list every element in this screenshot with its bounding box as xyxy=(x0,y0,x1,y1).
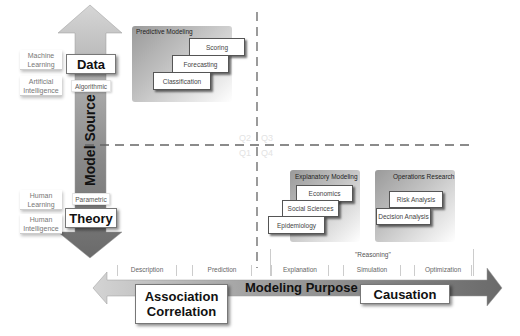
purpose-explanation: Explanation xyxy=(271,265,329,276)
data-box: Data xyxy=(66,54,116,74)
association-label: Association xyxy=(145,289,219,304)
risk-analysis-card: Risk Analysis xyxy=(389,191,443,208)
classification-card: Classification xyxy=(153,72,211,90)
purpose-simulation: Simulation xyxy=(343,265,401,276)
artificial-intelligence-label: Artificial Intelligence xyxy=(20,76,62,96)
human-intelligence-label: Human Intelligence xyxy=(20,214,62,234)
human-learning-label: Human Learning xyxy=(20,190,62,210)
decision-analysis-card: Decision Analysis xyxy=(376,208,431,225)
algorithmic-tag: Algorithmic xyxy=(71,80,111,92)
parametric-tag: Parametric xyxy=(72,193,110,205)
epidemiology-card: Epidemiology xyxy=(268,216,325,234)
purpose-description: Description xyxy=(117,265,177,276)
scoring-card: Scoring xyxy=(189,38,245,56)
causation-box: Causation xyxy=(360,284,450,304)
forecasting-card: Forecasting xyxy=(172,55,229,73)
modeling-purpose-title: Modeling Purpose xyxy=(245,280,358,295)
correlation-label: Correlation xyxy=(147,304,216,319)
reasoning-label: "Reasoning" xyxy=(355,251,391,258)
quadrant-q2-label: Q2 xyxy=(239,133,251,143)
purpose-optimization: Optimization xyxy=(414,265,472,276)
quadrant-q4-label: Q4 xyxy=(261,148,273,158)
explanatory-modeling-title: Explanatory Modeling xyxy=(295,173,358,180)
model-source-title: Model Source xyxy=(82,94,98,186)
theory-box: Theory xyxy=(65,208,117,228)
social-sciences-card: Social Sciences xyxy=(282,200,339,217)
association-correlation-box: Association Correlation xyxy=(135,284,228,324)
purpose-prediction: Prediction xyxy=(192,265,252,276)
machine-learning-label: Machine Learning xyxy=(20,50,62,70)
quadrant-q1-label: Q1 xyxy=(239,148,251,158)
predictive-modeling-title: Predictive Modeling xyxy=(136,28,193,35)
quadrant-q3-label: Q3 xyxy=(261,133,273,143)
operations-research-title: Operations Research xyxy=(393,173,454,180)
